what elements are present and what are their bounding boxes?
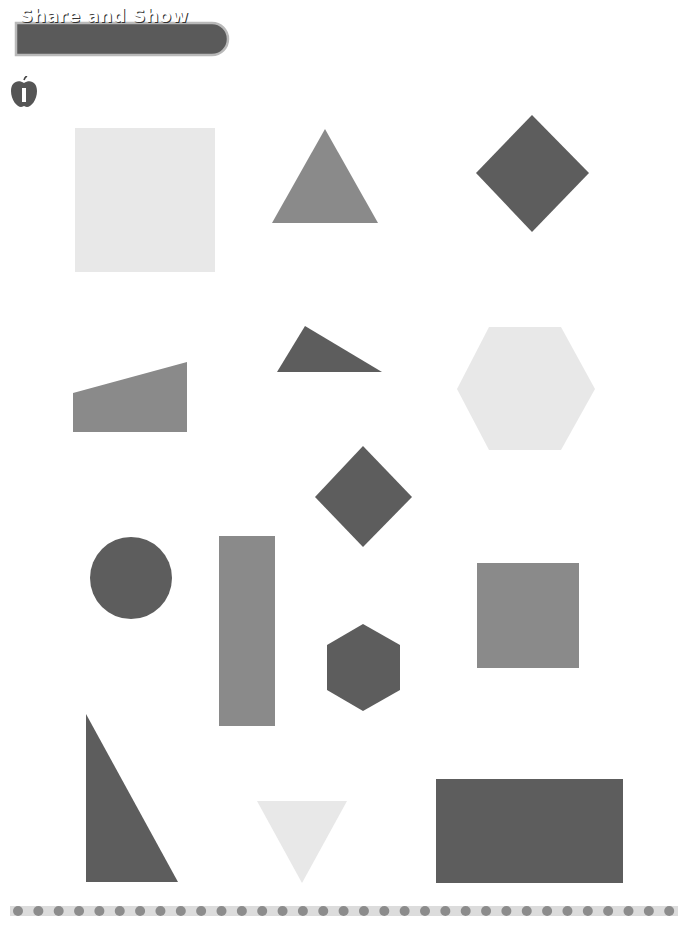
divider-dot <box>583 906 593 916</box>
divider-dot <box>318 906 328 916</box>
divider-dot <box>217 906 227 916</box>
divider-dot <box>54 906 64 916</box>
medium-trapezoid <box>73 362 187 432</box>
divider-dot <box>115 906 125 916</box>
divider-dot <box>522 906 532 916</box>
divider-dot <box>33 906 43 916</box>
divider-dot <box>542 906 552 916</box>
divider-dot <box>562 906 572 916</box>
divider-dot <box>379 906 389 916</box>
large-light-square <box>75 128 215 272</box>
divider-dot <box>94 906 104 916</box>
shapes-canvas <box>0 0 689 925</box>
divider-dot <box>461 906 471 916</box>
light-hexagon <box>457 327 595 450</box>
divider-dot <box>603 906 613 916</box>
medium-tall-rectangle <box>219 536 275 726</box>
divider-dot <box>74 906 84 916</box>
medium-triangle <box>272 129 378 223</box>
dark-small-triangle <box>277 326 382 372</box>
divider-dot <box>278 906 288 916</box>
divider-dot <box>339 906 349 916</box>
divider-dot <box>196 906 206 916</box>
divider-dot <box>400 906 410 916</box>
divider-dot <box>481 906 491 916</box>
dark-diamond-top <box>476 115 589 232</box>
dark-wide-rectangle <box>436 779 623 883</box>
divider-dot <box>359 906 369 916</box>
dark-small-hexagon <box>327 624 400 711</box>
medium-square <box>477 563 579 668</box>
divider-dot <box>420 906 430 916</box>
divider-dot <box>257 906 267 916</box>
divider-dot <box>237 906 247 916</box>
divider-dot <box>644 906 654 916</box>
dark-circle <box>90 537 172 619</box>
dotted-divider <box>0 900 689 922</box>
divider-dot <box>176 906 186 916</box>
dark-diamond-middle <box>315 446 412 547</box>
divider-dot <box>298 906 308 916</box>
divider-dot <box>13 906 23 916</box>
divider-dot <box>501 906 511 916</box>
dark-right-triangle <box>86 714 178 882</box>
divider-dot <box>135 906 145 916</box>
divider-dot <box>664 906 674 916</box>
divider-dot <box>624 906 634 916</box>
divider-dot <box>440 906 450 916</box>
divider-dot <box>155 906 165 916</box>
light-inverted-triangle <box>257 801 347 883</box>
